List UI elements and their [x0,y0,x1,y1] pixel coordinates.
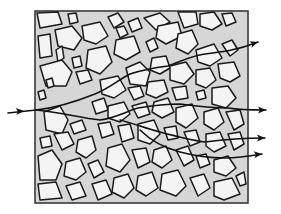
porous-medium-diagram [0,0,281,214]
grain [56,46,64,62]
grain [40,136,52,148]
grain [68,13,78,24]
grain [72,56,82,68]
grain [196,90,206,100]
grain [38,34,52,58]
grain [46,78,54,88]
arrowhead-icon [249,39,259,48]
grain [38,90,46,100]
